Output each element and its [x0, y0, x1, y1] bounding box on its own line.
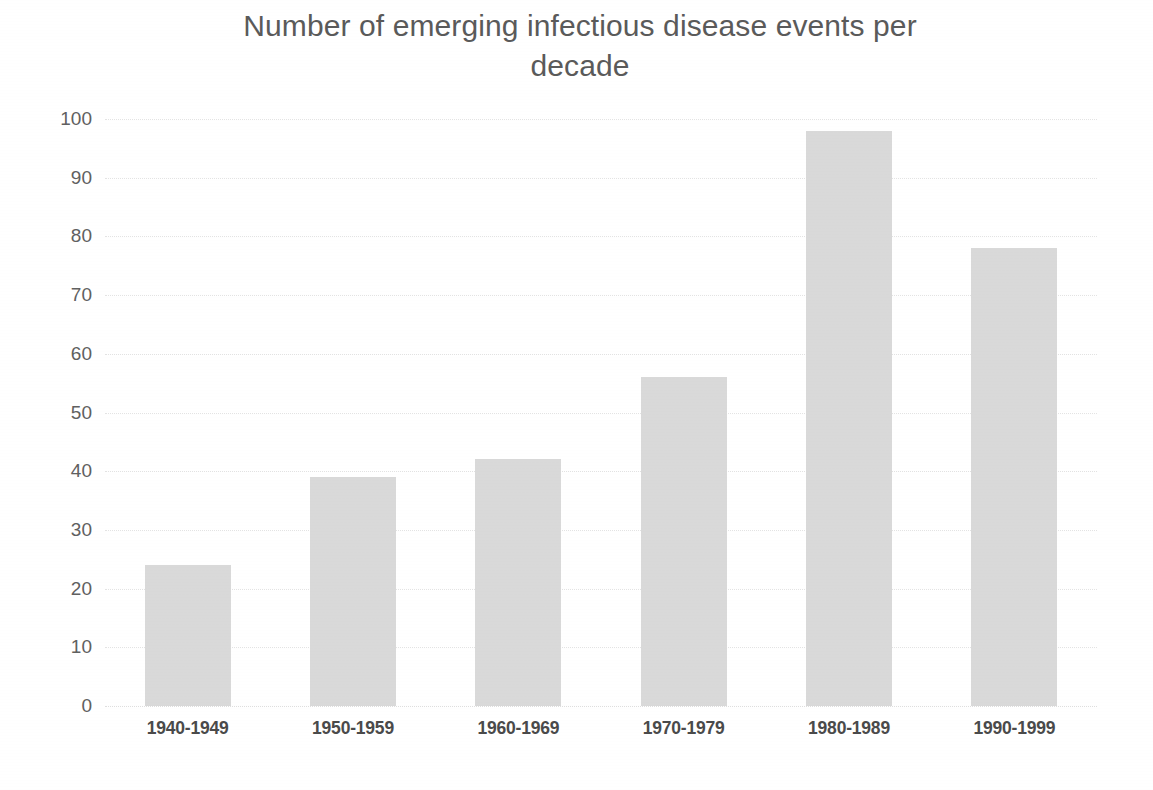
y-tick-label: 40 [0, 461, 92, 480]
x-tick-label: 1950-1959 [270, 718, 435, 738]
x-tick-label: 1980-1989 [766, 718, 931, 738]
y-tick-label: 70 [0, 285, 92, 304]
x-tick-label: 1940-1949 [105, 718, 270, 738]
y-tick-label: 60 [0, 344, 92, 363]
x-tick-label: 1990-1999 [932, 718, 1097, 738]
bar [145, 565, 231, 706]
y-tick-label: 80 [0, 226, 92, 245]
x-tick-label: 1960-1969 [436, 718, 601, 738]
x-tick-label: 1970-1979 [601, 718, 766, 738]
y-tick-label: 0 [0, 696, 92, 715]
chart-title: Number of emerging infectious disease ev… [140, 6, 1020, 86]
bar [971, 248, 1057, 706]
bar [806, 131, 892, 706]
bars-layer [105, 119, 1097, 706]
gridline-0 [105, 706, 1097, 707]
y-axis: 1009080706050403020100 [0, 119, 92, 706]
bar [641, 377, 727, 706]
bar [310, 477, 396, 706]
bar [475, 459, 561, 706]
y-tick-label: 30 [0, 520, 92, 539]
y-tick-label: 90 [0, 168, 92, 187]
y-tick-label: 50 [0, 403, 92, 422]
y-tick-label: 10 [0, 637, 92, 656]
x-axis: 1940-19491950-19591960-19691970-19791980… [105, 718, 1097, 748]
y-tick-label: 20 [0, 579, 92, 598]
y-tick-label: 100 [0, 109, 92, 128]
